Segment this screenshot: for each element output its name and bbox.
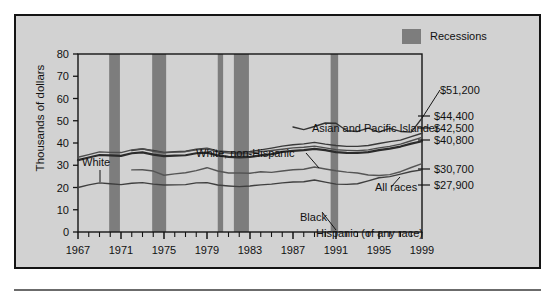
recession-band-2 (152, 54, 166, 232)
annotation-white: White (82, 156, 110, 168)
chart-figure: Recessions Thousands of dollars 01020304… (14, 14, 541, 269)
recession-band-5 (331, 54, 339, 232)
y-tick-label: 20 (57, 182, 69, 194)
y-tick-label: 70 (57, 70, 69, 82)
y-tick-label: 50 (57, 115, 69, 127)
recession-bands-group (109, 54, 338, 232)
end-value-hispanic: $27,900 (434, 179, 474, 191)
annotations-group: WhiteWhite, non-HispanicAsian and Pacifi… (82, 122, 439, 239)
end-value-labels-group: $51,200$44,400$42,500$40,800$30,700$27,9… (418, 84, 480, 191)
series-line-hispanic-of-any-race (132, 164, 422, 176)
plot-frame (78, 54, 422, 232)
annotation-all-races: All races (375, 181, 418, 193)
x-tick-label: 1979 (195, 244, 219, 256)
y-tick-label: 80 (57, 48, 69, 60)
annotation-white-non-hispanic: White, non-Hispanic (196, 147, 295, 159)
x-tick-label: 1995 (367, 244, 391, 256)
x-tick-label: 1971 (109, 244, 133, 256)
leader-line-white-non-hispanic (306, 153, 319, 168)
x-tick-label: 1987 (281, 244, 305, 256)
end-value-white: $42,500 (434, 122, 474, 134)
y-tick-label: 0 (63, 226, 69, 238)
annotation-black: Black (300, 211, 327, 223)
y-tick-label: 10 (57, 204, 69, 216)
x-tick-label: 1999 (410, 244, 434, 256)
end-value-white-non-hispanic: $44,400 (434, 110, 474, 122)
end-value-black: $30,700 (434, 163, 474, 175)
recession-band-3 (218, 54, 223, 232)
recession-band-1 (109, 54, 120, 232)
x-tick-label: 1967 (66, 244, 90, 256)
annotation-hispanic: Hispanic (of any race) (316, 227, 423, 239)
y-tick-label: 30 (57, 159, 69, 171)
end-value-all-races: $40,800 (434, 134, 474, 146)
footer-rule (14, 289, 541, 291)
end-value-asian-pacific-islander: $51,200 (440, 84, 480, 96)
recession-band-4 (234, 54, 249, 232)
x-tick-label: 1991 (324, 244, 348, 256)
y-tick-label: 40 (57, 137, 69, 149)
chart-plot: 0102030405060708019671971197519791983198… (16, 16, 543, 271)
y-tick-label: 60 (57, 93, 69, 105)
x-tick-label: 1975 (152, 244, 176, 256)
x-tick-label: 1983 (238, 244, 262, 256)
